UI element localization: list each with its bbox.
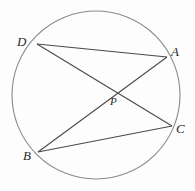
vertex-label-d: D (17, 35, 26, 48)
chord-a-b (38, 57, 167, 152)
chord-b-c (38, 126, 172, 152)
chord-d-a (37, 44, 167, 57)
circle-outline (12, 11, 180, 179)
vertex-label-a: A (171, 45, 179, 58)
geometry-figure: D A C B P (0, 0, 195, 191)
vertex-label-b: B (23, 149, 31, 162)
vertex-label-c: C (176, 122, 185, 135)
intersection-label-p: P (110, 96, 117, 107)
chord-d-c (37, 44, 172, 126)
